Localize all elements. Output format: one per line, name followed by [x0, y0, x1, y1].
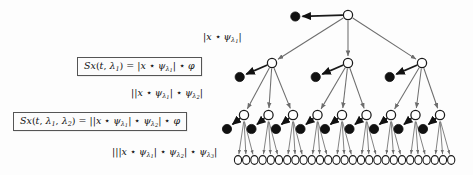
leaf-node-4 — [267, 156, 274, 165]
leaf-node-26 — [448, 156, 455, 165]
output-node-l2-7 — [394, 124, 403, 133]
internal-node-root — [343, 10, 352, 19]
formula-box-level-2: Sx(t, λ1, λ2) = ||x ⋆ ψλ1| ⋆ ψλ2| ⋆ φ — [13, 112, 187, 131]
scattering-tree-figure: Sx(t, λ1) = |x ⋆ ψλ1| ⋆ φ Sx(t, λ1, λ2) … — [0, 0, 473, 175]
edge-root-to-level1-0 — [278, 18, 343, 59]
output-edge-l2-8 — [429, 118, 437, 124]
internal-node-level2-5 — [362, 110, 371, 119]
internal-node-level1-0 — [267, 58, 276, 67]
internal-node-level2-2 — [288, 110, 297, 119]
edge-level1-1-to-level2-4 — [343, 69, 348, 108]
leaf-edges — [239, 122, 450, 155]
internal-node-level2-8 — [435, 110, 444, 119]
leaf-node-17 — [374, 156, 381, 165]
output-edges — [233, 15, 437, 124]
leaf-node-8 — [300, 156, 307, 165]
leaf-node-14 — [349, 156, 356, 165]
internal-node-level2-4 — [337, 110, 346, 119]
leaf-node-19 — [390, 156, 397, 165]
internal-node-level2-3 — [313, 110, 322, 119]
leaf-node-15 — [357, 156, 364, 165]
edge-level1-2-to-level2-7 — [416, 69, 421, 108]
formula-level-2-text: Sx(t, λ1, λ2) = ||x ⋆ ψλ1| ⋆ ψλ2| ⋆ φ — [20, 115, 180, 126]
edge-level2-5-to-leaf-15 — [362, 122, 366, 155]
edge-level1-1-to-level2-5 — [350, 68, 364, 108]
leaf-node-16 — [366, 156, 373, 165]
leaf-node-20 — [398, 156, 405, 165]
edge-level1-0-to-level2-2 — [274, 68, 290, 108]
output-edge-l2-4 — [331, 118, 339, 124]
leaf-node-3 — [259, 156, 266, 165]
path-label-level-2: ||x ⋆ ψλ1| ⋆ ψλ2| — [131, 87, 203, 98]
edge-level2-6-to-leaf-18 — [386, 122, 390, 155]
internal-node-level1-1 — [343, 58, 352, 67]
edge-level1-2-to-level2-8 — [424, 68, 438, 108]
edge-level2-8-to-leaf-24 — [436, 122, 440, 155]
edge-level2-7-to-leaf-21 — [411, 122, 415, 155]
formula-box-level-1: Sx(t, λ1) = |x ⋆ ψλ1| ⋆ φ — [77, 57, 202, 76]
leaf-node-18 — [382, 156, 389, 165]
leaf-node-23 — [423, 156, 430, 165]
formula-level-1-text: Sx(t, λ1) = |x ⋆ ψλ1| ⋆ φ — [84, 60, 195, 71]
internal-node-level2-6 — [386, 110, 395, 119]
output-node-root — [291, 12, 300, 21]
output-node-l1-0 — [235, 72, 244, 81]
output-edge-root — [302, 15, 342, 16]
output-edge-l2-5 — [355, 118, 363, 124]
output-node-l2-3 — [296, 124, 305, 133]
edge-level2-3-to-leaf-9 — [313, 122, 318, 155]
output-edge-l2-6 — [380, 118, 388, 124]
output-edge-l2-3 — [306, 118, 314, 124]
leaf-node-25 — [439, 156, 446, 165]
output-edge-l1-1 — [322, 65, 343, 74]
output-edge-l2-2 — [282, 118, 290, 124]
output-edge-l2-1 — [257, 118, 265, 124]
leaf-node-12 — [333, 156, 340, 165]
output-node-l2-1 — [247, 124, 256, 133]
edge-level1-0-to-level2-1 — [269, 69, 272, 108]
output-node-l2-4 — [320, 124, 329, 133]
edge-level2-1-to-leaf-3 — [263, 122, 268, 155]
leaf-node-9 — [308, 156, 315, 165]
leaf-node-21 — [407, 156, 414, 165]
leaf-node-10 — [316, 156, 323, 165]
output-node-l2-5 — [345, 124, 354, 133]
path-label-level-1: |x ⋆ ψλ1| — [203, 31, 242, 42]
output-node-l1-1 — [311, 72, 320, 81]
output-edge-l2-0 — [233, 118, 241, 124]
leaf-node-11 — [325, 156, 332, 165]
leaf-node-6 — [284, 156, 291, 165]
leaf-nodes — [234, 156, 454, 165]
internal-node-level2-0 — [239, 110, 248, 119]
tree-canvas — [0, 0, 473, 175]
leaf-node-1 — [243, 156, 250, 165]
output-node-l2-6 — [369, 124, 378, 133]
leaf-node-7 — [292, 156, 299, 165]
output-edge-l1-2 — [396, 65, 417, 74]
edge-level2-4-to-leaf-12 — [337, 122, 342, 155]
leaf-node-2 — [251, 156, 258, 165]
output-node-l2-2 — [271, 124, 280, 133]
edge-level2-2-to-leaf-6 — [288, 122, 293, 155]
output-node-l2-8 — [418, 124, 427, 133]
path-label-level-3: |||x ⋆ ψλ1| ⋆ ψλ2| ⋆ ψλ3| — [112, 146, 217, 157]
internal-node-level2-1 — [264, 110, 273, 119]
output-edge-l2-7 — [404, 118, 412, 124]
edge-root-to-level1-2 — [353, 18, 416, 59]
edge-level1-0-to-level2-0 — [247, 68, 269, 109]
leaf-node-24 — [431, 156, 438, 165]
internal-node-level2-7 — [411, 110, 420, 119]
leaf-node-13 — [341, 156, 348, 165]
output-node-l1-2 — [385, 72, 394, 81]
leaf-node-5 — [275, 156, 282, 165]
output-node-l2-0 — [222, 124, 231, 133]
leaf-node-0 — [234, 156, 241, 165]
internal-node-level1-2 — [417, 58, 426, 67]
edge-level2-0-to-leaf-0 — [239, 122, 244, 155]
output-edge-l1-0 — [246, 65, 267, 74]
leaf-node-22 — [415, 156, 422, 165]
